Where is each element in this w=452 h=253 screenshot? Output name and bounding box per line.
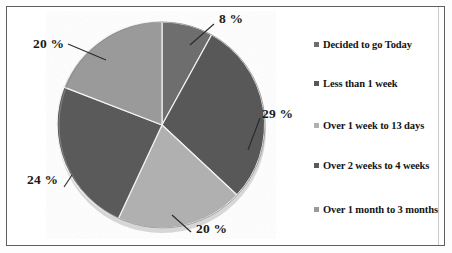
pie-area: 8 % 29 % 20 % 24 % 20 % [0,0,310,253]
pie-label-24-percent: 24 % [27,172,58,188]
chart-legend: Decided to go Today Less than 1 week Ove… [310,0,440,253]
pie-label-20-percent-top: 20 % [33,36,64,52]
pie-label-20-percent-bottom: 20 % [196,221,227,237]
pie-label-29-percent: 29 % [262,106,293,122]
legend-swatch-icon [314,42,319,47]
legend-item-over-1-week-to-13-days[interactable]: Over 1 week to 13 days [314,120,424,131]
legend-item-decided-to-go-today[interactable]: Decided to go Today [314,39,412,50]
leader-line-24 [64,175,72,187]
legend-swatch-icon [314,163,319,168]
legend-swatch-icon [314,207,319,212]
legend-swatch-icon [314,123,319,128]
legend-item-label: Over 2 weeks to 4 weeks [323,160,429,171]
legend-item-label: Less than 1 week [323,78,398,89]
legend-item-over-1-month-to-3-months[interactable]: Over 1 month to 3 months [314,204,438,215]
legend-item-less-than-1-week[interactable]: Less than 1 week [314,78,398,89]
legend-item-label: Decided to go Today [323,39,412,50]
legend-swatch-icon [314,81,319,86]
legend-item-over-2-weeks-to-4-weeks[interactable]: Over 2 weeks to 4 weeks [314,160,429,171]
legend-item-label: Over 1 week to 13 days [323,120,424,131]
pie-chart-screenshot: 8 % 29 % 20 % 24 % 20 % Decided to go To… [0,0,452,253]
legend-item-label: Over 1 month to 3 months [323,204,438,215]
pie-label-8-percent: 8 % [219,11,243,27]
